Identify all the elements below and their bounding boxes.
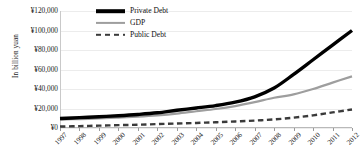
legend-item-public-debt: Public Debt xyxy=(96,30,168,40)
x-axis-tick-label: 2006 xyxy=(228,131,244,147)
x-axis-tick-label: 2012 xyxy=(345,131,361,147)
legend-swatch-public-debt xyxy=(96,30,125,40)
legend-label-gdp: GDP xyxy=(130,19,145,27)
x-axis-tick-label: 2001 xyxy=(131,131,147,147)
legend-item-gdp: GDP xyxy=(96,18,168,28)
y-axis-tick-label: ¥60,000 xyxy=(14,66,58,73)
x-axis-tick-labels: 1997199819992000200120022003200420052006… xyxy=(60,128,352,161)
y-axis-tick-label: ¥40,000 xyxy=(14,85,58,92)
chart-legend: Private Debt GDP Public Debt xyxy=(96,6,168,40)
x-axis-tick-label: 2007 xyxy=(248,131,264,147)
x-axis-tick-label: 2000 xyxy=(112,131,128,147)
y-axis-tick-labels: ¥0¥20,000¥40,000¥60,000¥80,000¥100,000¥1… xyxy=(14,0,58,161)
legend-swatch-gdp xyxy=(96,18,125,28)
x-axis-tick-label: 2008 xyxy=(267,131,283,147)
x-axis-tickmark xyxy=(352,128,353,131)
x-axis-tick-label: 2011 xyxy=(326,131,342,147)
legend-label-public-debt: Public Debt xyxy=(130,31,166,39)
y-axis-tick-label: ¥80,000 xyxy=(14,46,58,53)
y-axis-tick-label: ¥120,000 xyxy=(14,7,58,14)
x-axis-tick-label: 2010 xyxy=(306,131,322,147)
line-chart: In billion yuan ¥0¥20,000¥40,000¥60,000¥… xyxy=(0,0,361,161)
legend-swatch-private-debt xyxy=(96,6,125,16)
y-axis-tick-label: ¥20,000 xyxy=(14,105,58,112)
series-line-gdp xyxy=(60,76,352,119)
x-axis-tick-label: 2005 xyxy=(209,131,225,147)
x-axis-tick-label: 2002 xyxy=(150,131,166,147)
x-axis-tick-label: 2009 xyxy=(287,131,303,147)
x-axis-tick-label: 2004 xyxy=(189,131,205,147)
y-axis-tick-label: ¥0 xyxy=(14,124,58,131)
legend-label-private-debt: Private Debt xyxy=(130,7,168,15)
x-axis-tick-label: 1998 xyxy=(73,131,89,147)
series-line-private-debt xyxy=(60,31,352,119)
x-axis-tick-label: 1999 xyxy=(92,131,108,147)
x-axis-tick-label: 2003 xyxy=(170,131,186,147)
y-axis-tick-label: ¥100,000 xyxy=(14,27,58,34)
legend-item-private-debt: Private Debt xyxy=(96,6,168,16)
